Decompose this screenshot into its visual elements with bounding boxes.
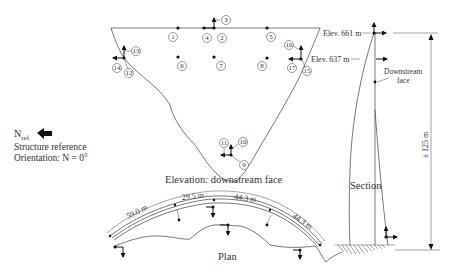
gauge-15: 15 xyxy=(303,67,312,76)
elev-637-label: Elev. 637 m xyxy=(311,55,350,64)
gauge-1: 1 xyxy=(169,33,178,42)
svg-text:14: 14 xyxy=(114,64,122,72)
svg-text:5: 5 xyxy=(269,33,273,41)
structure-reference: Nref Structure reference Orientation: N … xyxy=(14,128,88,163)
gauge-11: 11 xyxy=(220,139,229,148)
north-arrow-icon xyxy=(37,128,52,139)
gauge-10: 10 xyxy=(239,138,248,147)
section-downstream-face xyxy=(349,33,374,245)
valley-profile xyxy=(111,28,320,182)
svg-text:12: 12 xyxy=(126,69,134,77)
plan-caption: Plan xyxy=(218,251,237,262)
svg-text:7: 7 xyxy=(219,62,223,70)
svg-text:1: 1 xyxy=(171,33,175,41)
svg-text:17: 17 xyxy=(289,64,297,72)
elevation-caption: Elevation: downstream face xyxy=(165,174,283,185)
downstream-face-label-2: face xyxy=(397,76,410,85)
svg-text:2: 2 xyxy=(220,34,224,42)
gauge-2: 2 xyxy=(218,34,227,43)
svg-text:9: 9 xyxy=(242,161,246,169)
reference-line-1: Structure reference xyxy=(14,142,87,152)
gauge-7: 7 xyxy=(217,62,226,71)
gauge-3: 3 xyxy=(222,16,231,25)
svg-text:11: 11 xyxy=(221,139,228,147)
height-dimension-label: ± 125 m xyxy=(421,131,430,158)
plan-dim-3: 44.3 m xyxy=(234,192,258,204)
gauge-6: 6 xyxy=(178,62,187,71)
dam-instrumentation-diagram: 1 3 4 2 5 6 xyxy=(0,0,451,279)
north-subscript: ref xyxy=(21,134,29,142)
elev-661-label: Elev. 661 m xyxy=(323,29,362,38)
gauge-12: 12 xyxy=(125,69,134,78)
gauge-5: 5 xyxy=(267,33,276,42)
svg-text:15: 15 xyxy=(304,67,312,75)
gauge-17: 17 xyxy=(288,64,297,73)
svg-text:10: 10 xyxy=(240,138,248,146)
svg-text:6: 6 xyxy=(180,62,184,70)
section-view: Elev. 661 m Elev. 637 m Downstream face … xyxy=(311,23,440,254)
svg-text:4: 4 xyxy=(205,34,209,42)
gauge-8: 8 xyxy=(258,62,267,71)
downstream-face-label: Downstream xyxy=(384,67,422,76)
gauge-14: 14 xyxy=(113,64,122,73)
gauge-16: 16 xyxy=(285,41,294,50)
gauge-9: 9 xyxy=(240,161,249,170)
gauge-13: 13 xyxy=(132,47,141,56)
reference-line-2: Orientation: N = 0° xyxy=(14,153,88,163)
svg-text:3: 3 xyxy=(224,16,228,24)
section-caption: Section xyxy=(350,180,382,191)
svg-text:Nref: Nref xyxy=(14,128,30,142)
north-label: N xyxy=(14,128,21,139)
plan-view: 59.0 m 29.5 m 44.3 m 44.3 m Plan xyxy=(107,191,342,262)
elevation-view: 1 3 4 2 5 6 xyxy=(111,16,320,186)
svg-text:8: 8 xyxy=(260,62,264,70)
gauge-4: 4 xyxy=(203,34,212,43)
svg-text:13: 13 xyxy=(133,47,141,55)
svg-text:16: 16 xyxy=(286,41,294,49)
